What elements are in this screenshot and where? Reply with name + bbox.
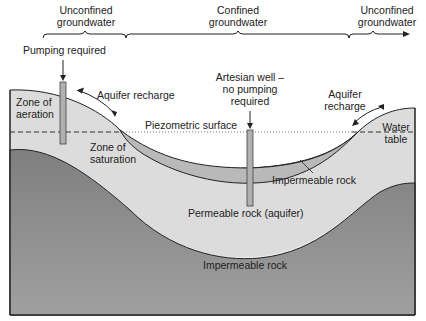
label-line: Confined	[198, 4, 278, 16]
zone-of-saturation-label: Zone of saturation	[90, 141, 136, 165]
artesian-well-label: Artesian well – no pumping required	[210, 71, 290, 107]
piezometric-surface-label: Piezometric surface	[145, 119, 237, 131]
label-line: recharge	[320, 100, 370, 112]
unconfined-groundwater-left-label: Unconfined groundwater	[46, 4, 126, 28]
label-line: groundwater	[198, 16, 278, 28]
label-line: groundwater	[46, 16, 126, 28]
permeable-rock-aquifer-label: Permeable rock (aquifer)	[188, 207, 304, 219]
label-line: table	[376, 133, 416, 145]
artesian-well	[247, 130, 253, 206]
confined-groundwater-label: Confined groundwater	[198, 4, 278, 28]
label-line: aeration	[16, 108, 54, 120]
label-line: Zone of	[16, 96, 54, 108]
arrow-down-icon	[60, 75, 66, 81]
zone-of-aeration-label: Zone of aeration	[16, 96, 54, 120]
label-line: saturation	[90, 153, 136, 165]
impermeable-rock-upper-label: Impermeable rock	[272, 174, 356, 186]
label-line: required	[210, 95, 290, 107]
label-line: groundwater	[347, 16, 426, 28]
label-line: Aquifer	[320, 88, 370, 100]
pumping-required-label: Pumping required	[23, 44, 106, 56]
label-line: no pumping	[210, 83, 290, 95]
groundwater-bracket	[43, 31, 403, 38]
aquifer-recharge-left-label: Aquifer recharge	[97, 89, 175, 101]
pumping-well	[60, 82, 66, 144]
aquifer-recharge-right-label: Aquifer recharge	[320, 88, 370, 112]
unconfined-groundwater-right-label: Unconfined groundwater	[347, 4, 426, 28]
label-line: Water	[376, 121, 416, 133]
water-table-label: Water table	[376, 121, 416, 145]
label-line: Zone of	[90, 141, 136, 153]
label-line: Artesian well –	[210, 71, 290, 83]
arrow-right-icon	[403, 31, 410, 37]
impermeable-rock-lower-label: Impermeable rock	[203, 259, 287, 271]
arrow-down-icon	[247, 123, 253, 129]
label-line: Unconfined	[347, 4, 426, 16]
label-line: Unconfined	[46, 4, 126, 16]
